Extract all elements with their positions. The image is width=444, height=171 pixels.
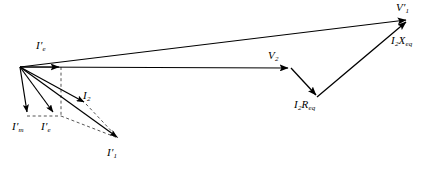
label-ie-exciting-current-top: I′e [36,40,46,51]
phasor-diagram-canvas: V′1 I2Xeq V2 I2Req I′e I2 I′m I′e I′1 [0,0,444,171]
label-v2-secondary-voltage: V2 [268,50,279,61]
vector-im-magnetizing-current [20,67,27,112]
label-ie-core-loss-current: I′e [41,121,51,132]
vector-i1-primary-current [20,67,117,137]
label-im-magnetizing-current: I′m [12,121,24,132]
phasor-vectors-group [20,20,406,137]
vector-v2-secondary-voltage [20,67,288,68]
dashed-ie-to-i1-tip [61,116,118,138]
label-i1-primary-current: I′1 [107,147,117,158]
label-i2req-resistance-drop: I2Req [294,99,316,110]
vector-ie-core-loss-current [20,67,53,112]
vector-i2req-resistance-drop [291,68,316,95]
label-v1-primary-voltage: V′1 [396,2,409,13]
phasor-vector-graphic [0,0,444,171]
vector-v1-primary-voltage [20,20,406,67]
label-i2-secondary-current: I2 [83,90,91,101]
vector-i2-secondary-current [20,67,84,102]
label-i2xeq-reactance-drop: I2Xeq [391,35,413,46]
dashed-i2-to-i1-tip [86,104,118,138]
